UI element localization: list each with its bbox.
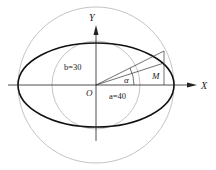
x-axis-label: X [200, 80, 208, 91]
point-m-label: M [151, 71, 160, 81]
angle-alpha-label: α [124, 75, 129, 85]
y-axis-arrow-icon [94, 25, 99, 35]
origin-label: O [86, 88, 93, 98]
semi-major-label: a=40 [109, 91, 126, 101]
x-axis-arrow-icon [187, 83, 197, 88]
y-axis-label: Y [89, 12, 96, 23]
semi-minor-label: b=30 [64, 62, 82, 72]
angle-arc [130, 68, 134, 85]
ellipse-diagram: Y X O M α b=30 a=40 [0, 0, 216, 170]
